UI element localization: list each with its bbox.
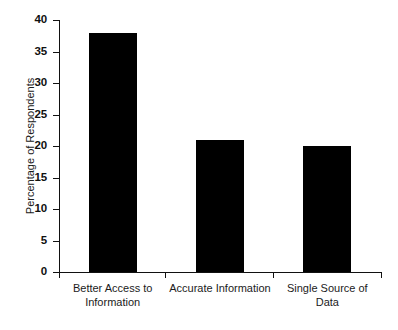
x-axis-category-label: Accurate Information [166, 281, 273, 295]
bar-chart: Percentage of Respondents 05101520253035… [0, 0, 398, 330]
x-axis-labels: Better Access to InformationAccurate Inf… [0, 281, 398, 325]
bar [303, 146, 351, 272]
x-axis-category-label: Better Access to Information [59, 281, 166, 309]
x-axis-category-label: Single Source of Data [274, 281, 381, 309]
bar [196, 140, 244, 272]
bar [89, 33, 137, 272]
